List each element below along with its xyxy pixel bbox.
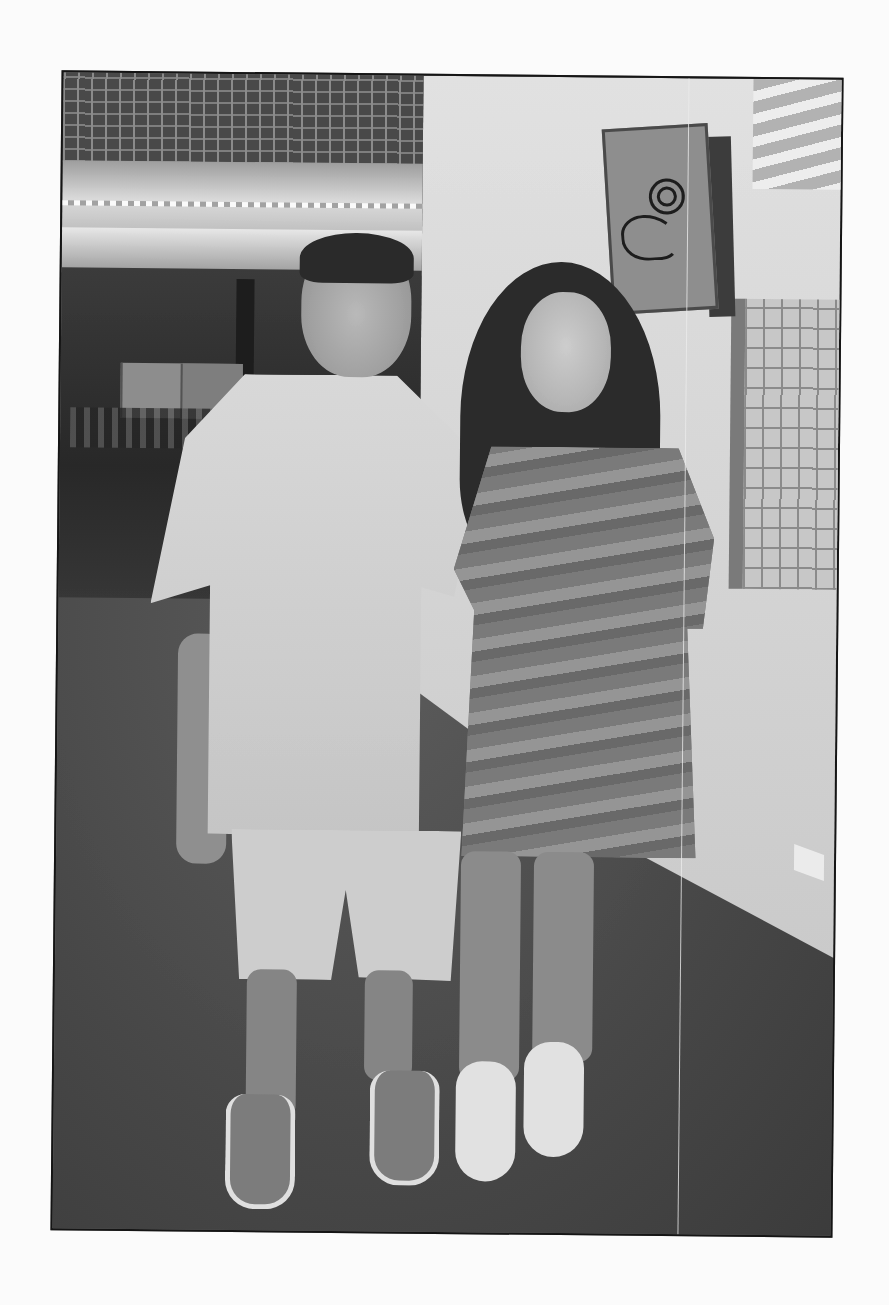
photograph xyxy=(50,70,843,1237)
woman-camo-dress xyxy=(451,446,715,858)
petroglyph-art-panel xyxy=(602,123,719,315)
stone-mural xyxy=(729,299,844,590)
woman-sneaker-right xyxy=(523,1042,584,1158)
man-shoe-left xyxy=(225,1094,296,1210)
man-leg-right xyxy=(364,970,413,1080)
woman-leg-left xyxy=(459,851,521,1082)
figure-glyph xyxy=(620,213,679,262)
spiral-glyph xyxy=(648,178,686,216)
woman-face xyxy=(520,292,611,413)
woman-leg-right xyxy=(532,852,594,1063)
ceiling-lights xyxy=(62,160,423,233)
man-shoe-right xyxy=(369,1070,440,1186)
woman-sneaker-left xyxy=(455,1061,516,1182)
man-hair xyxy=(300,233,414,284)
ceiling-grid xyxy=(63,72,424,165)
mural-top xyxy=(752,79,843,190)
